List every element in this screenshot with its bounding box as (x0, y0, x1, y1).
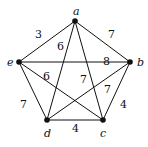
vertex-label-d: d (44, 127, 51, 140)
edge-weight-a-d: 6 (57, 40, 64, 53)
vertex-a (72, 18, 78, 24)
edge-weight-a-b: 7 (108, 28, 115, 41)
vertex-e (16, 59, 22, 65)
vertex-label-c: c (100, 127, 106, 140)
vertex-label-a: a (73, 5, 80, 18)
edge-a-d (47, 21, 75, 120)
vertex-b (127, 59, 133, 65)
edge-a-c (75, 21, 103, 120)
vertex-c (100, 117, 106, 123)
edge-weight-d-c: 4 (72, 122, 79, 135)
edge-weight-a-c: 7 (80, 73, 87, 86)
vertex-label-e: e (7, 56, 14, 69)
edges: 3767867744 (19, 21, 130, 135)
edge-weight-e-b: 8 (103, 55, 110, 68)
edge-b-d (47, 62, 130, 120)
edge-weight-e-d: 7 (20, 98, 27, 111)
edge-a-e (19, 21, 75, 62)
weighted-graph: 3767867744 abcde (0, 0, 148, 147)
edge-weight-e-c: 6 (43, 70, 50, 83)
edge-weight-a-e: 3 (35, 28, 42, 41)
edge-weight-b-c: 4 (120, 98, 127, 111)
vertex-label-b: b (137, 56, 144, 69)
edge-weight-b-d: 7 (104, 83, 111, 96)
vertex-d (44, 117, 50, 123)
